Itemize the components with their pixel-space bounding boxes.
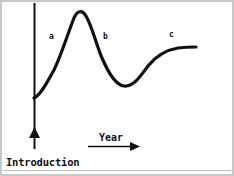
x-axis-arrow-icon — [130, 142, 140, 151]
stage-label-b: b — [103, 32, 108, 41]
stage-label-c: c — [169, 30, 174, 39]
figure-caption: Introduction — [6, 156, 79, 168]
vertical-axis-arrow-icon — [29, 127, 40, 138]
plot-area: a b c Year — [0, 0, 234, 176]
caption-divider — [3, 170, 231, 171]
life-cycle-curve — [34, 12, 196, 98]
figure-root: a b c Year Introduction — [0, 0, 234, 176]
stage-label-a: a — [49, 32, 54, 41]
x-axis-label: Year — [99, 132, 123, 143]
